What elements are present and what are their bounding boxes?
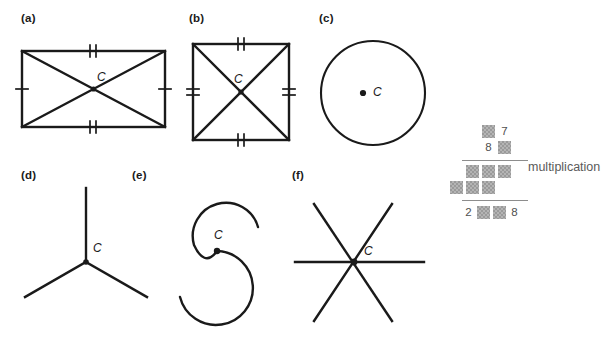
panel-d-three-ray-star <box>25 188 147 297</box>
digit-cell: 7 <box>498 125 511 138</box>
panel-label-d: (d) <box>21 169 36 181</box>
panel-label-e: (e) <box>132 169 147 181</box>
multiplication-row-partial-2 <box>450 180 495 195</box>
panel-c-center-label: C <box>373 85 382 99</box>
panel-label-b: (b) <box>189 12 204 24</box>
multiplication-rule-bottom <box>462 200 528 201</box>
digit-cell-hidden <box>477 206 490 219</box>
digit-cell-hidden <box>482 165 495 178</box>
digit-cell: 8 <box>508 206 521 219</box>
digit-cell: 8 <box>482 141 495 154</box>
panel-b-center-dot <box>238 89 243 94</box>
panel-e-s-curve <box>180 203 258 325</box>
digit-cell-hidden <box>466 165 479 178</box>
panel-f-center-dot <box>351 259 358 266</box>
digit-cell-hidden <box>466 181 479 194</box>
panel-a-center-label: C <box>97 70 106 84</box>
multiplication-row-product: 2 8 <box>462 205 521 220</box>
multiplication-problem: 7 8 2 8 multiplica <box>462 124 613 240</box>
panel-label-a: (a) <box>21 12 36 24</box>
multiplication-row-multiplicand: 7 <box>482 124 511 139</box>
digit-cell-hidden <box>482 125 495 138</box>
panel-a-center-dot <box>91 86 96 91</box>
panel-c-center-dot <box>360 90 366 96</box>
panel-label-c: (c) <box>319 12 334 24</box>
panel-label-f: (f) <box>292 169 304 181</box>
multiplication-row-partial-1 <box>466 164 511 179</box>
panel-e-center-label: C <box>214 228 223 242</box>
panel-d-center-label: C <box>93 241 102 255</box>
multiplication-caption: multiplication <box>528 160 600 174</box>
digit-cell-hidden <box>450 181 463 194</box>
multiplication-row-multiplier: 8 <box>482 140 511 155</box>
digit-cell: 2 <box>462 206 475 219</box>
panel-d-center-dot <box>83 259 89 265</box>
panel-e-center-dot <box>214 248 220 254</box>
digit-cell-hidden <box>498 141 511 154</box>
panel-f-center-label: C <box>364 244 373 258</box>
panel-f-six-ray-asterisk <box>295 204 424 321</box>
panel-b-center-label: C <box>234 72 243 86</box>
multiplication-rule-top <box>462 160 528 161</box>
digit-cell-hidden <box>482 181 495 194</box>
digit-cell-hidden <box>498 165 511 178</box>
digit-cell-hidden <box>493 206 506 219</box>
figure-canvas: (a) (b) (c) (d) (e) (f) C C C C C C 7 8 <box>0 0 613 348</box>
